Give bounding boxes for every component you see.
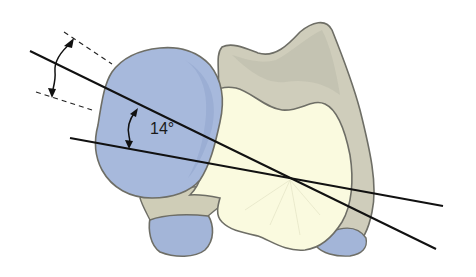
dashed-line-upper xyxy=(64,32,112,64)
bone-diagram xyxy=(0,0,476,277)
outer-angle-arrow xyxy=(52,42,72,94)
blue-bone-lower-left xyxy=(149,213,212,256)
angle-label: 14° xyxy=(150,121,174,137)
dashed-reference-lines xyxy=(36,32,112,110)
outer-arrow-head-top xyxy=(64,38,74,48)
diagram-canvas: 14° xyxy=(0,0,476,277)
dashed-line-lower xyxy=(36,92,92,110)
